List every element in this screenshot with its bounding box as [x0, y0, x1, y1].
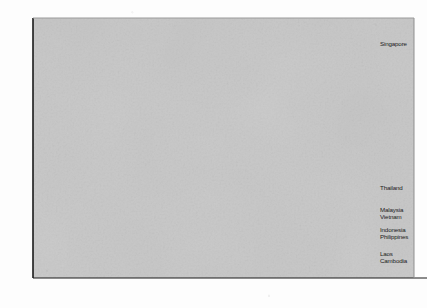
series-label-cambodia: Cambodia [380, 258, 407, 264]
series-label-vietnam: Vietnam [380, 214, 402, 220]
line-chart-canvas [0, 0, 427, 308]
plot-background-grain [33, 18, 414, 278]
chart-figure: SingaporeThailandMalaysiaVietnamIndonesi… [0, 0, 427, 308]
series-label-singapore: Singapore [380, 41, 407, 47]
series-label-thailand: Thailand [380, 185, 403, 191]
series-label-philippines: Philippines [380, 234, 408, 240]
